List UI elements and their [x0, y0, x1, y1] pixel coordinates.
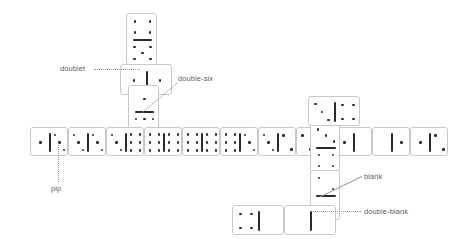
pip-dot	[196, 149, 199, 152]
pip-dot	[332, 154, 335, 157]
pip-dot	[141, 52, 144, 55]
domino-half	[69, 128, 88, 157]
domino-half	[107, 128, 126, 157]
domino-divider	[316, 147, 335, 148]
pip-dot	[272, 149, 275, 152]
pip-dot	[82, 149, 85, 152]
pip-dot	[332, 165, 335, 168]
pip-dot	[130, 133, 133, 136]
pip-dot	[92, 134, 95, 137]
pip-dot	[149, 31, 152, 34]
pip-dot	[168, 141, 171, 144]
pip-dot	[139, 133, 142, 136]
pip-dot	[177, 141, 180, 144]
pip-dot	[225, 133, 228, 136]
label-double-blank: double-blank	[364, 207, 408, 216]
domino-half	[335, 97, 361, 127]
tile-row-six-six-b	[182, 127, 220, 156]
pip-dot	[206, 133, 209, 136]
pip-dot	[73, 134, 76, 137]
pip-dot	[143, 118, 146, 121]
pip-dot	[234, 133, 237, 136]
pip-dot	[96, 141, 99, 144]
domino-half	[221, 128, 240, 157]
domino-divider	[429, 133, 430, 152]
pip-dot	[263, 134, 266, 137]
pip-dot	[77, 141, 80, 144]
domino-half	[183, 128, 202, 157]
pip-dot	[341, 118, 344, 121]
pip-dot	[400, 141, 403, 144]
domino-half	[145, 128, 164, 157]
pip-dot	[143, 98, 146, 101]
pip-dot	[135, 118, 138, 121]
domino-half	[127, 40, 158, 66]
domino-divider	[201, 133, 202, 152]
domino-divider	[163, 133, 164, 152]
pip-dot	[187, 141, 190, 144]
label-doublet: doublet	[60, 64, 85, 73]
domino-divider	[133, 39, 153, 40]
pip-dot	[206, 149, 209, 152]
tile-row-three-two	[258, 127, 296, 156]
pip-dot	[239, 213, 242, 216]
pip-dot	[225, 149, 228, 152]
pip-dot	[39, 141, 42, 144]
pip-dot	[248, 141, 251, 144]
pip-dot	[318, 177, 321, 180]
domino-divider	[239, 133, 240, 152]
domino-divider	[49, 133, 50, 152]
pip-dot	[149, 133, 152, 136]
domino-half	[50, 128, 69, 157]
domino-half	[430, 128, 449, 157]
leader-line-double-blank	[313, 211, 361, 212]
tile-row-blank-one	[372, 127, 410, 156]
pip-dot	[239, 227, 242, 230]
pip-dot	[253, 149, 256, 152]
pip-dot	[282, 134, 285, 137]
pip-dot	[158, 133, 161, 136]
domino-half	[411, 128, 430, 157]
pip-dot	[139, 141, 142, 144]
leader-line-pip	[58, 143, 59, 182]
pip-dot	[133, 79, 136, 82]
pip-dot	[267, 141, 270, 144]
pip-dot	[301, 134, 304, 137]
pip-dot	[419, 141, 422, 144]
label-pip: pip	[51, 184, 61, 193]
domino-divider	[353, 133, 354, 152]
pip-dot	[101, 149, 104, 152]
pip-dot	[225, 141, 228, 144]
tile-right-top-three-four	[308, 96, 360, 126]
pip-dot	[206, 141, 209, 144]
pip-dot	[134, 20, 137, 23]
pip-dot	[134, 31, 137, 34]
pip-dot	[318, 165, 321, 168]
pip-dot	[250, 213, 253, 216]
pip-dot	[327, 119, 330, 122]
domino-divider	[310, 211, 311, 230]
domino-half	[259, 128, 278, 157]
pip-dot	[343, 141, 346, 144]
pip-dot	[434, 134, 437, 137]
domino-half	[278, 128, 297, 157]
pip-dot	[352, 118, 355, 121]
pip-dot	[130, 149, 133, 152]
tile-row-three-six	[106, 127, 144, 156]
pip-dot	[196, 133, 199, 136]
pip-dot	[234, 149, 237, 152]
tile-row-three-three	[68, 127, 106, 156]
pip-dot	[168, 149, 171, 152]
pip-dot	[133, 58, 136, 61]
domino-half	[354, 128, 373, 157]
domino-divider	[135, 111, 155, 112]
label-double-six: double-six	[178, 74, 213, 83]
tile-row-one-three	[30, 127, 68, 156]
tile-row-one-two	[410, 127, 448, 156]
domino-half	[373, 128, 392, 157]
pip-dot	[215, 141, 218, 144]
pip-dot	[149, 46, 152, 49]
tile-right-three-four	[310, 122, 340, 172]
domino-half	[240, 128, 259, 157]
pip-dot	[215, 149, 218, 152]
